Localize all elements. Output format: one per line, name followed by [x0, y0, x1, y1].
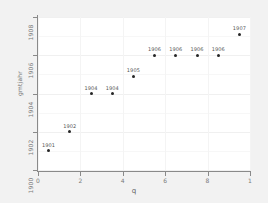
data-point	[90, 92, 93, 95]
x-tick-mark	[80, 172, 81, 176]
data-point-label: 1901	[42, 142, 55, 148]
data-point	[174, 54, 177, 57]
y-gridline-minor	[38, 151, 250, 152]
data-point	[68, 130, 71, 133]
y-tick-label: 1904	[27, 94, 34, 124]
data-point-label: 1906	[148, 46, 161, 52]
x-tick-label: 6	[163, 177, 167, 184]
data-point-label: 1906	[169, 46, 182, 52]
x-tick-mark	[250, 172, 251, 176]
data-point	[196, 54, 199, 57]
x-tick-mark	[165, 172, 166, 176]
x-tick-label: 2	[78, 177, 82, 184]
y-tick-mark	[33, 170, 37, 171]
data-point	[217, 54, 220, 57]
x-tick-mark	[208, 172, 209, 176]
y-tick-mark	[33, 94, 37, 95]
y-tick-label: 1900	[27, 171, 34, 201]
data-point-label: 1904	[106, 85, 119, 91]
y-tick-mark	[33, 132, 37, 133]
y-gridline	[38, 94, 250, 95]
data-point-label: 1904	[84, 85, 97, 91]
y-gridline-minor	[38, 36, 250, 37]
x-tick-mark	[38, 172, 39, 176]
y-tick-mark	[33, 55, 37, 56]
data-point-label: 1905	[127, 67, 140, 73]
y-tick-label: 1908	[27, 18, 34, 48]
data-point	[153, 54, 156, 57]
y-tick-label: 1906	[27, 56, 34, 86]
data-point-label: 1906	[190, 46, 203, 52]
x-gridline	[123, 17, 124, 170]
plot-panel: 1901190219041904190519061906190619061907	[38, 17, 250, 170]
x-tick-label: 4	[121, 177, 125, 184]
x-gridline	[250, 17, 251, 170]
x-tick-label: 8	[206, 177, 210, 184]
x-tick-mark	[123, 172, 124, 176]
x-gridline	[80, 17, 81, 170]
x-gridline	[165, 17, 166, 170]
data-point	[238, 33, 241, 36]
y-gridline	[38, 17, 250, 18]
data-point-label: 1907	[233, 25, 246, 31]
y-tick-mark	[33, 17, 37, 18]
y-gridline-minor	[38, 113, 250, 114]
y-gridline-minor	[38, 74, 250, 75]
data-point	[132, 75, 135, 78]
x-axis-line	[37, 171, 251, 172]
y-tick-label: 1902	[27, 132, 34, 162]
y-axis-title: gmtjahr	[16, 71, 23, 96]
data-point-label: 1906	[212, 46, 225, 52]
x-tick-label: 0	[36, 177, 40, 184]
y-axis-line	[37, 15, 38, 172]
data-point	[111, 92, 114, 95]
x-gridline	[208, 17, 209, 170]
data-point-label: 1902	[63, 123, 76, 129]
x-gridline	[38, 17, 39, 170]
data-point	[47, 149, 50, 152]
x-axis-title: q	[0, 187, 268, 195]
scatter-chart: 1901190219041904190519061906190619061907…	[0, 0, 268, 203]
x-tick-label: 1	[248, 177, 252, 184]
